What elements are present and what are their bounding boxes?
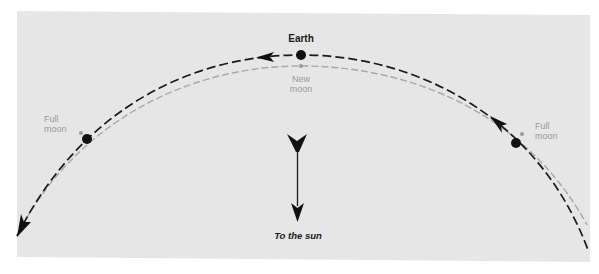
moon-dot-full-right <box>520 132 524 136</box>
full-moon-left-label: Full moon <box>44 114 84 134</box>
full-moon-right-label: Full moon <box>535 121 575 141</box>
full-moon-right-label-line1: Full <box>535 121 575 131</box>
new-moon-label-line2: moon <box>281 84 321 94</box>
full-moon-left-label-line2: moon <box>44 124 84 134</box>
earth-dot-top <box>296 50 306 60</box>
earth-dot-right <box>511 138 521 148</box>
full-moon-right-label-line2: moon <box>535 131 575 141</box>
new-moon-label: New moon <box>281 74 321 94</box>
moon-dot-new <box>299 64 303 68</box>
earth-label: Earth <box>282 34 320 44</box>
sun-direction-label: To the sun <box>262 231 334 241</box>
full-moon-left-label-line1: Full <box>44 114 84 124</box>
new-moon-label-line1: New <box>281 74 321 84</box>
earth-dot-left <box>82 134 92 144</box>
